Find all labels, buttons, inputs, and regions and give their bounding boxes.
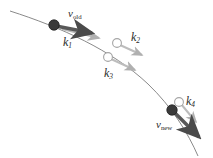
open-node-k2: [113, 39, 122, 48]
arrow-k2: [120, 45, 142, 55]
filled-node-v-new: [167, 105, 177, 115]
label-k4-sub: 4: [191, 100, 195, 109]
open-node-k4: [175, 98, 184, 107]
label-v-new-sub: new: [161, 124, 172, 131]
label-v-old: vold: [68, 8, 82, 20]
label-k3-sub: 3: [109, 72, 113, 81]
arrow-k3: [111, 59, 135, 70]
arrow-group: [56, 26, 199, 137]
label-v-old-sub: old: [73, 13, 82, 20]
label-k2: k2: [131, 31, 140, 44]
label-k4: k4: [186, 95, 195, 108]
trajectory-curve: [10, 11, 198, 156]
label-k1: k1: [63, 36, 72, 49]
node-group: [49, 20, 184, 115]
label-k3: k3: [104, 67, 113, 80]
filled-node-v-old: [49, 20, 59, 30]
label-k1-sub: 1: [68, 41, 72, 50]
label-k2-sub: 2: [136, 36, 140, 45]
label-v-new: vnew: [156, 119, 172, 131]
open-node-k3: [104, 53, 113, 62]
